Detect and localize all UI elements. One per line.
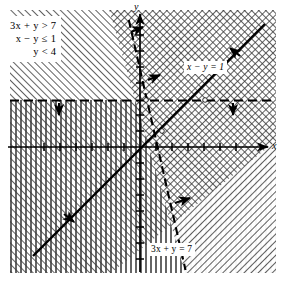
vertex-2-1 — [160, 129, 165, 134]
boundary-label-x-minus-y-equals-1: x − y = 1 — [184, 61, 227, 74]
vertex-5-4 — [203, 98, 208, 103]
vertex-1-4 — [144, 98, 149, 103]
boundary-label-3x-plus-y-equals-7: 3x + y = 7 — [148, 243, 195, 256]
y-axis-label: y — [134, 1, 138, 13]
inequality-line-2: x − y ≤ 1 — [10, 33, 56, 45]
x-axis-label: x — [272, 140, 276, 152]
inequality-graph-figure: 3x + y > 7 x − y ≤ 1 y < 4 x − y = 1 3x … — [0, 0, 286, 283]
system-of-inequalities: 3x + y > 7 x − y ≤ 1 y < 4 — [6, 16, 61, 62]
inequality-line-3: y < 4 — [10, 46, 56, 58]
inequality-line-1: 3x + y > 7 — [10, 20, 56, 32]
